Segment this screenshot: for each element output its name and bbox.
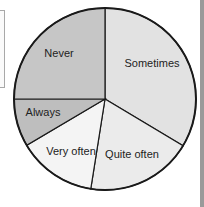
label-very-often: Very often [46, 145, 96, 157]
label-sometimes: Sometimes [124, 57, 180, 69]
label-always: Always [26, 106, 61, 118]
pie-chart: Never Sometimes Always Very often Quite … [0, 0, 204, 207]
label-never: Never [44, 47, 74, 59]
label-quite-often: Quite often [105, 148, 159, 160]
